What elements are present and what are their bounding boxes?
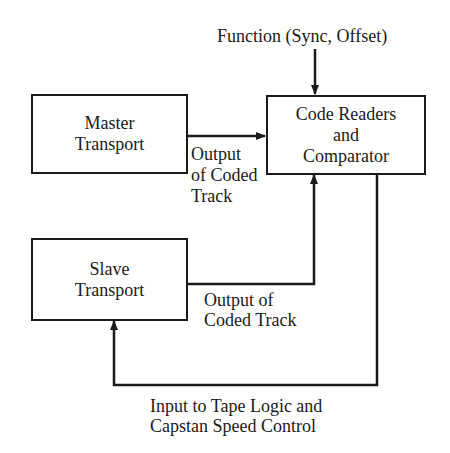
slave-transport-box: Slave Transport — [31, 238, 188, 321]
block-diagram: Master Transport Code Readers and Compar… — [0, 0, 450, 453]
master-output-label: Output of Coded Track — [191, 144, 258, 207]
function-label: Function (Sync, Offset) — [217, 26, 387, 46]
code-line-2: and — [333, 125, 359, 146]
feedback-label: Input to Tape Logic and Capstan Speed Co… — [150, 396, 322, 436]
slave-output-label: Output of Coded Track — [204, 290, 297, 330]
code-line-1: Code Readers — [296, 104, 396, 125]
master-line-2: Transport — [75, 134, 144, 155]
master-transport-box: Master Transport — [31, 94, 188, 174]
master-line-1: Master — [85, 113, 135, 134]
slave-line-2: Transport — [75, 280, 144, 301]
slave-line-1: Slave — [90, 259, 130, 280]
connector-lines — [0, 0, 450, 453]
code-readers-comparator-box: Code Readers and Comparator — [266, 95, 426, 175]
code-line-3: Comparator — [303, 146, 389, 167]
